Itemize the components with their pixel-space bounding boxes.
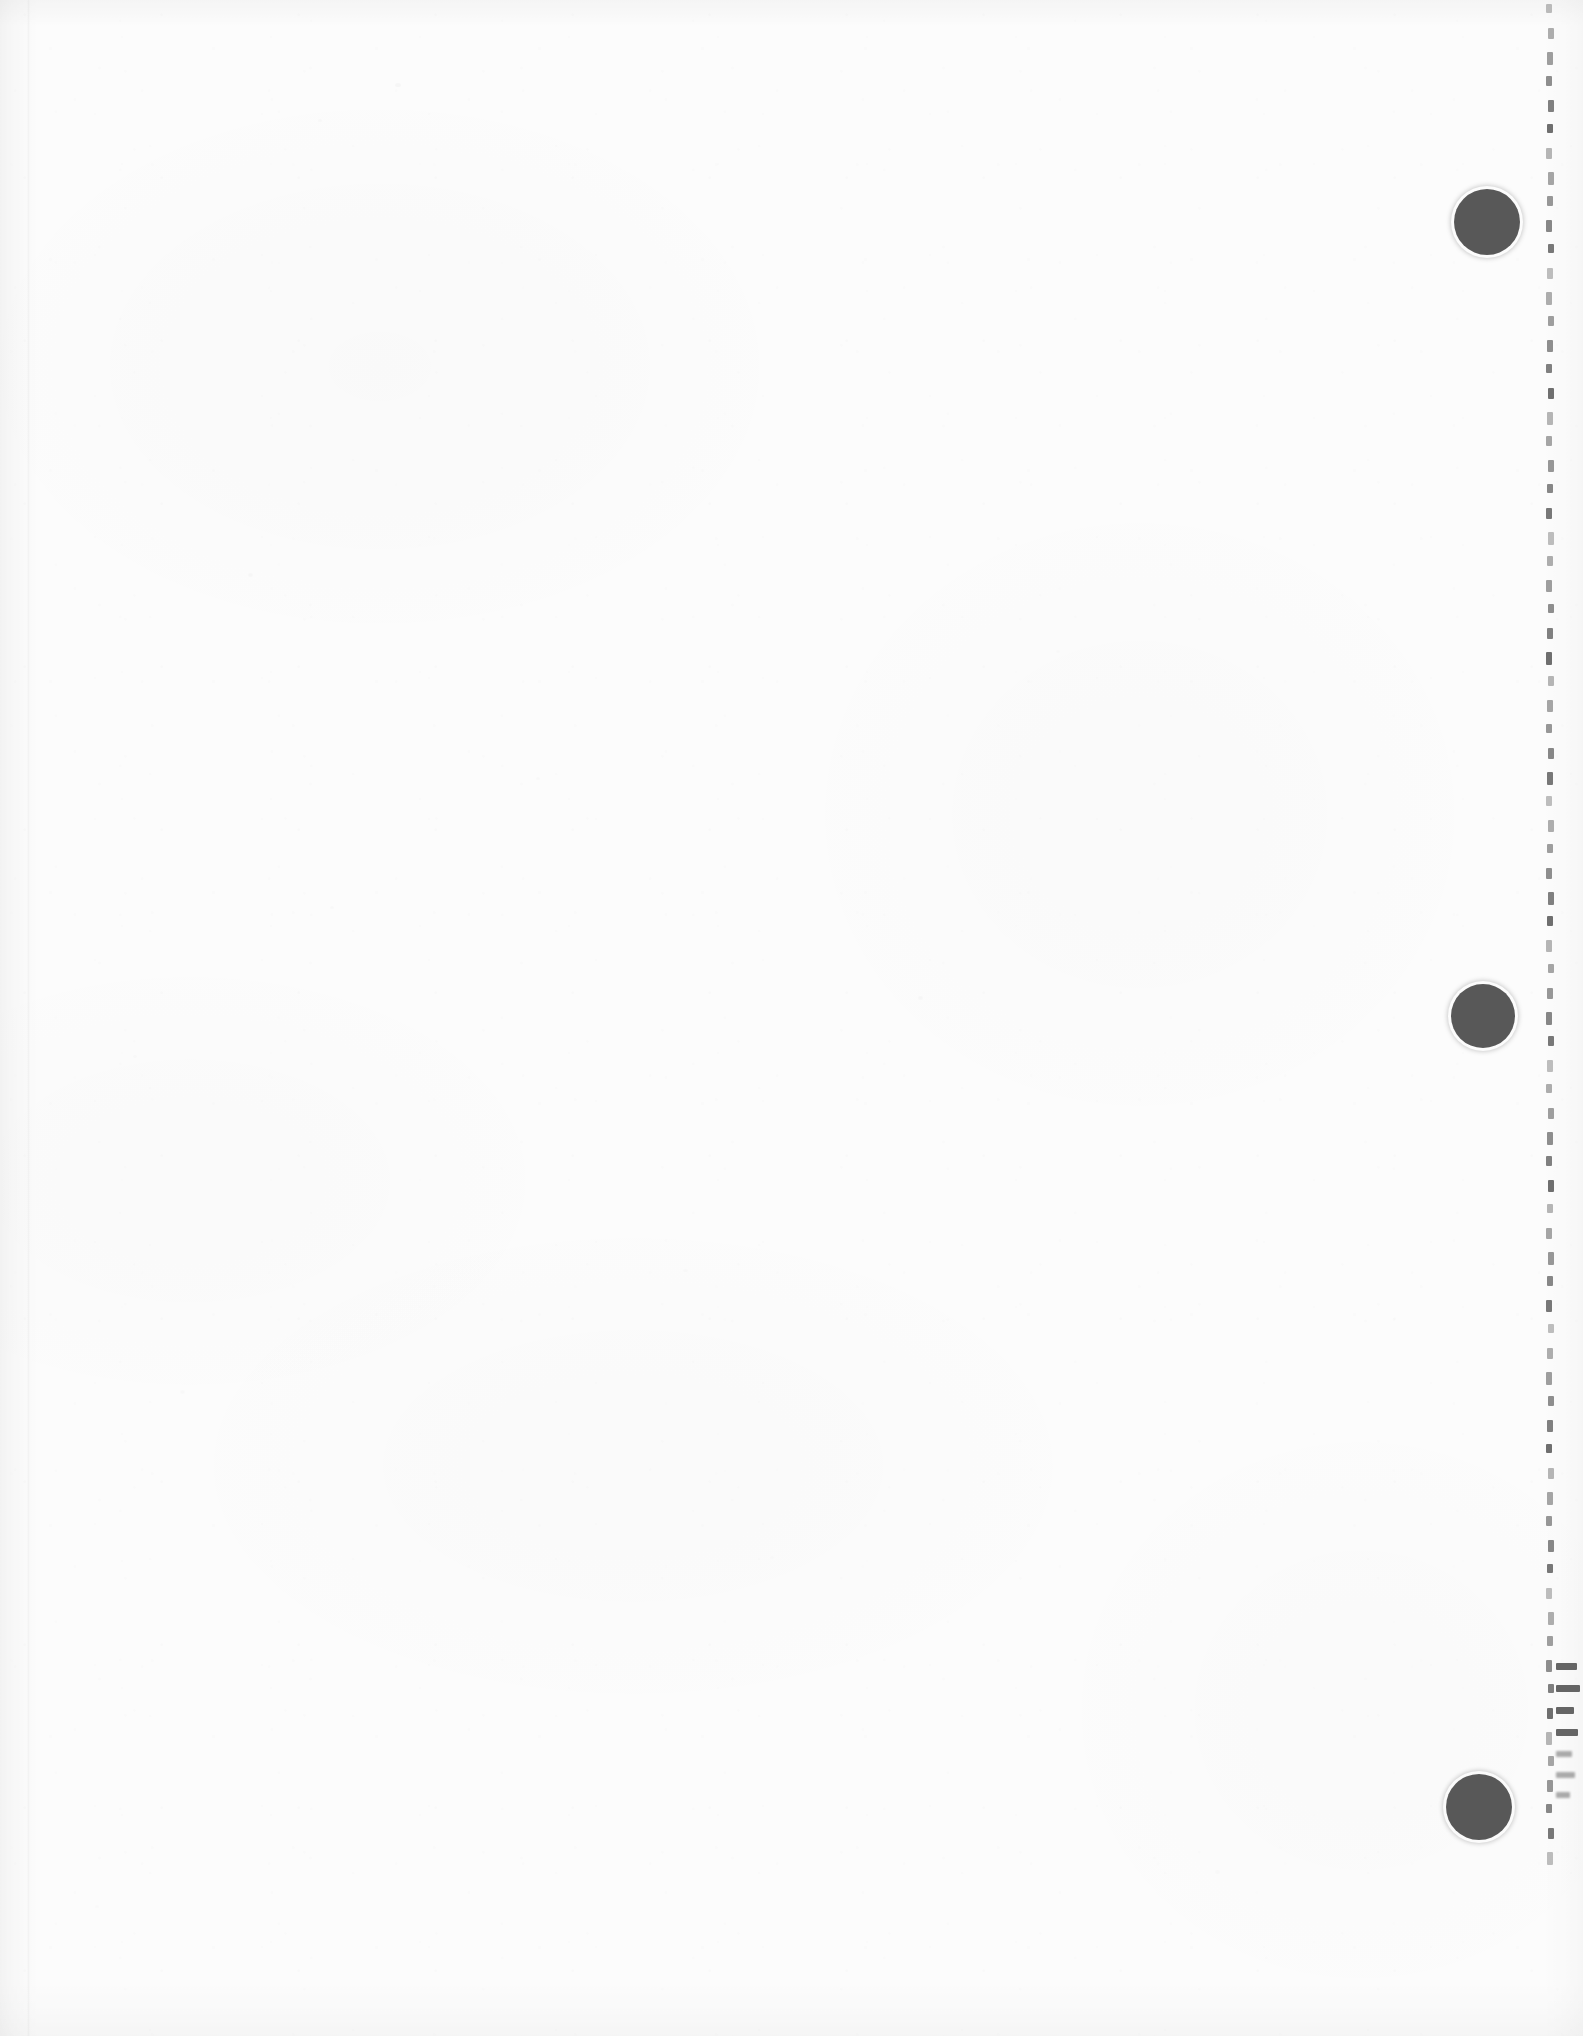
perforation-tick	[1546, 868, 1552, 879]
scan-speck	[330, 906, 334, 909]
perforation-tick	[1548, 820, 1554, 832]
scan-speck	[248, 573, 253, 577]
scan-speck	[770, 1556, 774, 1559]
perforation-tick	[1547, 1204, 1553, 1213]
perforation-tick	[1546, 1228, 1552, 1239]
perforation-tick	[1548, 172, 1554, 185]
edge-tear-dash	[1556, 1685, 1580, 1692]
perforation-tick	[1548, 100, 1554, 112]
perforation-tick	[1547, 1060, 1553, 1072]
scan-speck	[395, 83, 401, 87]
perforation-tick	[1546, 508, 1552, 519]
edge-tear-dash	[1556, 1663, 1577, 1670]
punch-dot-middle	[1451, 984, 1515, 1048]
perforation-tick	[1548, 1036, 1554, 1046]
perforation-tick	[1546, 1804, 1552, 1813]
perforation-tick	[1546, 940, 1552, 952]
perforation-tick	[1548, 604, 1554, 613]
perforation-tick	[1546, 580, 1552, 592]
scan-speck	[95, 1905, 99, 1908]
perforation-tick	[1546, 652, 1552, 665]
perforation-tick	[1547, 412, 1553, 425]
scan-speck	[180, 1390, 185, 1394]
perforation-tick	[1547, 1348, 1553, 1359]
perforation-tick	[1547, 1564, 1553, 1573]
perforation-tick	[1546, 4, 1552, 13]
perforation-tick	[1546, 1012, 1552, 1025]
perforation-tick	[1548, 892, 1554, 905]
perforation-tick	[1546, 1660, 1552, 1672]
perforation-tick	[1547, 700, 1553, 712]
perforation-tick	[1546, 1444, 1552, 1453]
scan-speck	[536, 777, 540, 780]
punch-dot-top	[1454, 189, 1520, 255]
perforation-tick	[1548, 460, 1554, 472]
perforation-tick	[1546, 1156, 1552, 1166]
perforation-tick	[1547, 916, 1553, 926]
perforation-tick	[1546, 1084, 1552, 1093]
perforation-tick	[1546, 364, 1552, 373]
perforation-tick	[1548, 1468, 1554, 1479]
edge-tear-dash	[1556, 1772, 1575, 1778]
page-crease-left	[27, 0, 30, 2036]
page-edge-shadow-top	[0, 0, 1583, 26]
perforation-tick	[1546, 1516, 1552, 1526]
perforation-tick	[1547, 124, 1553, 133]
perforation-tick	[1547, 556, 1553, 566]
perforation-tick	[1547, 196, 1553, 206]
perforation-tick	[1547, 1708, 1553, 1719]
scanned-page	[0, 0, 1583, 2036]
perforation-tick	[1547, 1780, 1553, 1792]
perforation-tick	[1548, 1756, 1554, 1766]
scan-speck	[1056, 650, 1060, 653]
perforation-tick	[1547, 1492, 1553, 1505]
perforation-tick	[1547, 628, 1553, 639]
scan-speck	[918, 996, 923, 1000]
perforation-tick	[1547, 1420, 1553, 1432]
perforation-tick	[1546, 1588, 1552, 1599]
perforation-tick	[1546, 796, 1552, 806]
punch-dot-bottom	[1446, 1774, 1512, 1840]
perforation-tick	[1546, 220, 1552, 232]
perforation-tick	[1547, 268, 1553, 279]
perforation-line	[1547, 0, 1553, 2036]
perforation-tick	[1548, 1828, 1554, 1839]
perforation-tick	[1546, 724, 1552, 733]
perforation-tick	[1548, 1540, 1554, 1552]
scan-speck	[133, 1055, 137, 1058]
perforation-tick	[1547, 844, 1553, 853]
perforation-tick	[1547, 340, 1553, 352]
perforation-tick	[1547, 772, 1553, 785]
perforation-tick	[1548, 1252, 1554, 1265]
perforation-tick	[1546, 436, 1552, 446]
scan-speck	[318, 119, 322, 122]
perforation-tick	[1548, 676, 1554, 686]
perforation-tick	[1546, 1372, 1552, 1385]
perforation-tick	[1548, 1108, 1554, 1119]
scan-speck	[683, 1269, 688, 1272]
page-edge-shadow-bottom	[0, 1982, 1583, 2036]
perforation-tick	[1547, 52, 1553, 65]
perforation-tick	[1546, 1300, 1552, 1312]
perforation-tick	[1547, 1852, 1553, 1865]
perforation-tick	[1546, 148, 1552, 159]
edge-tear-dash	[1556, 1729, 1578, 1736]
perforation-tick	[1548, 1684, 1554, 1693]
perforation-tick	[1547, 1636, 1553, 1646]
perforation-tick	[1548, 964, 1554, 973]
perforation-tick	[1547, 484, 1553, 493]
perforation-tick	[1547, 988, 1553, 999]
page-edge-shadow-left	[0, 0, 38, 2036]
perforation-tick	[1548, 1396, 1554, 1406]
perforation-tick	[1548, 1612, 1554, 1625]
perforation-tick	[1547, 1276, 1553, 1286]
perforation-tick	[1548, 28, 1554, 39]
edge-tear-dash	[1556, 1792, 1570, 1798]
perforation-tick	[1548, 388, 1554, 399]
edge-tear-dash	[1556, 1751, 1572, 1757]
perforation-tick	[1548, 532, 1554, 545]
perforation-tick	[1546, 292, 1552, 305]
perforation-tick	[1548, 1180, 1554, 1192]
perforation-tick	[1546, 1732, 1552, 1745]
perforation-tick	[1548, 748, 1554, 759]
